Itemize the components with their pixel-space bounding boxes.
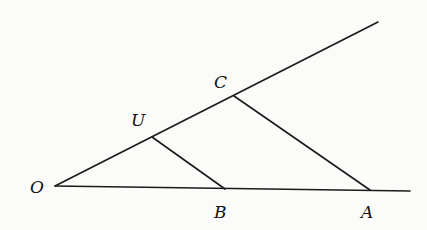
point-label-o: O: [30, 177, 44, 197]
point-label-u: U: [131, 110, 146, 130]
point-label-a: A: [359, 202, 373, 222]
segment-CA: [234, 96, 370, 190]
diagram-svg: O U C B A: [0, 0, 427, 230]
segment-UB: [152, 137, 225, 189]
point-label-b: B: [213, 202, 227, 222]
geometry-diagram: O U C B A: [0, 0, 427, 230]
point-label-c: C: [214, 72, 227, 92]
base-ray: [55, 186, 410, 191]
